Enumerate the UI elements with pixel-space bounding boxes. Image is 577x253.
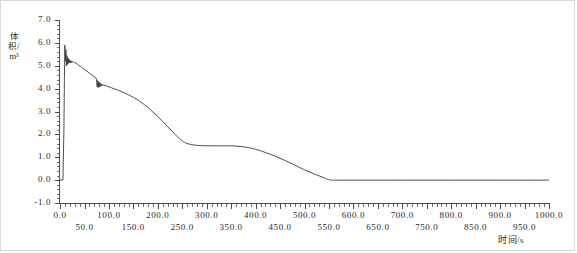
y-tick-minor [57,52,60,53]
x-tick-label: 400.0 [244,210,267,220]
x-tick-major [476,204,477,209]
x-tick-major [207,204,208,209]
x-tick-major [451,204,452,209]
x-tick-minor [393,204,394,207]
x-tick-minor [119,204,120,207]
y-tick-label: 0.0 [3,174,51,184]
x-tick-minor [138,204,139,207]
y-tick-minor [57,171,60,172]
x-tick-minor [270,204,271,207]
x-tick-minor [129,204,130,207]
x-tick-minor [163,204,164,207]
x-tick-minor [456,204,457,207]
chart-figure: 体积/m³ -1.00.01.02.03.04.05.06.07.00.050.… [0,0,575,251]
x-tick-major [549,204,550,209]
y-tick-minor [57,57,60,58]
x-tick-major [280,204,281,209]
y-tick-label: 2.0 [3,128,51,138]
y-tick-minor [57,93,60,94]
x-tick-minor [177,204,178,207]
x-tick-label: 100.0 [97,210,120,220]
x-tick-minor [309,204,310,207]
x-tick-minor [495,204,496,207]
y-tick-label: 4.0 [3,83,51,93]
y-tick-label: 1.0 [3,151,51,161]
y-tick-minor [57,61,60,62]
y-tick-major [55,43,60,44]
x-tick-label: 500.0 [293,210,316,220]
x-tick-minor [520,204,521,207]
x-tick-minor [485,204,486,207]
x-tick-label: 600.0 [342,210,365,220]
x-tick-label: 750.0 [415,222,438,232]
x-tick-minor [515,204,516,207]
x-tick-minor [70,204,71,207]
x-tick-minor [290,204,291,207]
x-tick-minor [275,204,276,207]
x-tick-minor [143,204,144,207]
x-tick-major [60,204,61,209]
y-tick-minor [57,29,60,30]
x-tick-minor [197,204,198,207]
x-tick-minor [388,204,389,207]
x-tick-minor [417,204,418,207]
x-tick-minor [89,204,90,207]
x-tick-minor [432,204,433,207]
x-tick-minor [437,204,438,207]
y-tick-minor [57,189,60,190]
x-tick-minor [168,204,169,207]
x-tick-label: 550.0 [317,222,340,232]
y-tick-label: 6.0 [3,37,51,47]
y-tick-minor [57,107,60,108]
x-tick-minor [358,204,359,207]
x-tick-minor [217,204,218,207]
x-tick-minor [187,204,188,207]
data-curve [60,20,549,203]
x-tick-major [231,204,232,209]
x-tick-major [402,204,403,209]
x-tick-minor [295,204,296,207]
x-tick-minor [412,204,413,207]
x-tick-minor [75,204,76,207]
x-tick-minor [368,204,369,207]
x-tick-minor [544,204,545,207]
x-tick-label: 900.0 [488,210,511,220]
y-tick-minor [57,139,60,140]
x-tick-minor [202,204,203,207]
x-tick-minor [324,204,325,207]
y-tick-minor [57,144,60,145]
x-tick-minor [349,204,350,207]
x-tick-major [305,204,306,209]
y-tick-major [55,89,60,90]
y-tick-minor [57,194,60,195]
x-tick-label: 950.0 [513,222,536,232]
y-tick-minor [57,70,60,71]
x-tick-minor [539,204,540,207]
x-tick-label: 1000.0 [535,210,563,220]
x-tick-minor [153,204,154,207]
x-tick-label: 450.0 [268,222,291,232]
x-tick-major [256,204,257,209]
x-tick-label: 700.0 [391,210,414,220]
y-tick-major [55,112,60,113]
y-tick-major [55,157,60,158]
x-tick-label: 150.0 [122,222,145,232]
x-tick-minor [334,204,335,207]
y-tick-label: 3.0 [3,106,51,116]
x-tick-minor [261,204,262,207]
y-tick-minor [57,98,60,99]
y-tick-minor [57,34,60,35]
x-tick-minor [265,204,266,207]
y-tick-major [55,180,60,181]
x-tick-minor [446,204,447,207]
x-tick-minor [490,204,491,207]
x-tick-minor [441,204,442,207]
y-tick-major [55,66,60,67]
x-tick-minor [246,204,247,207]
x-tick-minor [373,204,374,207]
y-tick-major [55,134,60,135]
x-tick-minor [80,204,81,207]
x-tick-minor [300,204,301,207]
x-tick-label: 350.0 [219,222,242,232]
x-tick-minor [104,204,105,207]
